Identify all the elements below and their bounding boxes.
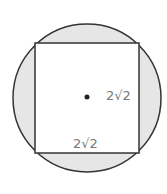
inscribed-square-diagram: [0, 0, 167, 194]
center-dot: [85, 95, 90, 100]
bottom-side-label: 2√2: [73, 136, 98, 151]
right-side-label: 2√2: [106, 88, 131, 103]
